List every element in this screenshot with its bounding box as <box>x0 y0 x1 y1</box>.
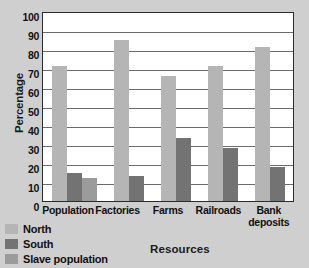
legend-swatch <box>5 239 18 249</box>
x-axis-tick-label-line: Farms <box>143 205 193 217</box>
x-axis-tick-label-line: Bank <box>244 205 294 217</box>
x-axis-tick-label-line: Railroads <box>193 205 243 217</box>
bar-group <box>208 13 238 201</box>
legend-item[interactable]: South <box>5 237 155 251</box>
y-axis-tick-label: 60 <box>14 88 39 98</box>
bar[interactable] <box>176 138 191 201</box>
bar[interactable] <box>82 178 97 201</box>
legend-label: Slave population <box>23 253 108 265</box>
bar[interactable] <box>114 40 129 202</box>
y-axis-tick-label: 100 <box>14 12 39 22</box>
y-axis-tick-label: 50 <box>14 107 39 117</box>
bar[interactable] <box>208 66 223 201</box>
legend-swatch <box>5 224 18 234</box>
bar[interactable] <box>223 148 238 201</box>
x-axis-tick-label-line: Factories <box>93 205 143 217</box>
y-axis-tick-labels: 1009080706050403020100 <box>14 6 39 202</box>
bar[interactable] <box>255 47 270 201</box>
bar-group <box>114 13 144 201</box>
legend: NorthSouthSlave population <box>5 222 155 267</box>
legend-item[interactable]: Slave population <box>5 252 155 266</box>
bar[interactable] <box>270 167 285 201</box>
y-axis-tick-label: 30 <box>14 145 39 155</box>
legend-label: North <box>23 223 51 235</box>
bar[interactable] <box>52 66 67 201</box>
chart-figure: Percentage 1009080706050403020100 Popula… <box>0 0 309 268</box>
y-axis-tick-label: 20 <box>14 164 39 174</box>
y-axis-tick-label: 40 <box>14 126 39 136</box>
plot-area <box>42 12 294 202</box>
legend-swatch <box>5 254 18 264</box>
y-axis-tick-label: 80 <box>14 50 39 60</box>
bar[interactable] <box>161 76 176 201</box>
y-axis-tick-label: 90 <box>14 31 39 41</box>
x-axis-tick-label-line: Population <box>42 205 92 217</box>
bar[interactable] <box>129 176 144 201</box>
y-axis-tick-label: 70 <box>14 69 39 79</box>
bar-group <box>161 13 191 201</box>
x-axis-title: Resources <box>150 243 210 255</box>
legend-item[interactable]: North <box>5 222 155 236</box>
y-axis-tick-label: 0 <box>14 202 39 212</box>
bar[interactable] <box>67 173 82 202</box>
y-axis-tick-label: 10 <box>14 183 39 193</box>
bar-group <box>255 13 285 201</box>
legend-label: South <box>23 238 53 250</box>
x-axis-tick-label: Bankdeposits <box>244 205 294 239</box>
x-axis-tick-label-line: deposits <box>244 217 294 229</box>
bar-group <box>52 13 97 201</box>
bar-groups <box>43 13 293 201</box>
x-axis-tick-label: Railroads <box>193 205 243 239</box>
